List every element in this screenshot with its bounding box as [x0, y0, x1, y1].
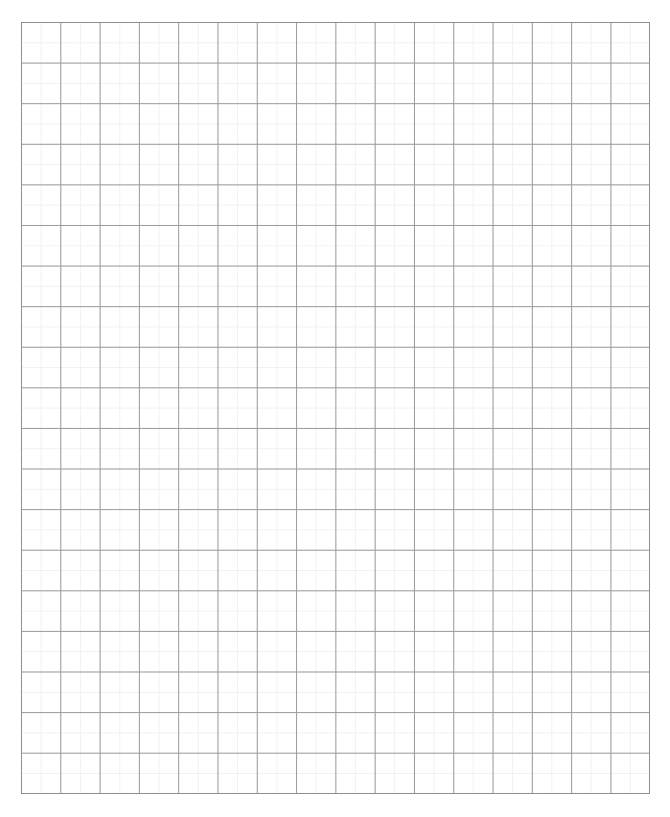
graph-paper-sheet — [0, 0, 670, 817]
graph-paper-grid — [21, 22, 650, 794]
